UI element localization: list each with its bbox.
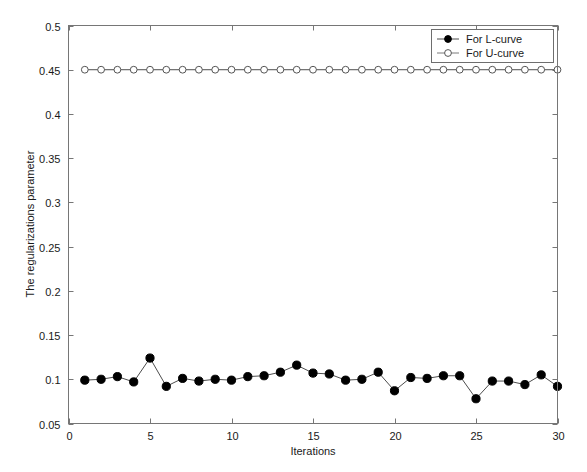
x-tick-label: 0 <box>66 430 72 442</box>
data-point <box>97 375 105 383</box>
data-point <box>538 66 545 73</box>
data-point <box>342 66 349 73</box>
data-point <box>227 376 235 384</box>
figure-canvas: 0.050.10.150.20.250.30.350.40.450.5 0510… <box>0 0 587 472</box>
data-point <box>81 376 89 384</box>
data-point <box>113 373 121 381</box>
x-tick-label: 5 <box>147 430 153 442</box>
data-point <box>212 66 219 73</box>
legend-label-l-curve: For L-curve <box>466 33 522 45</box>
data-point <box>179 374 187 382</box>
y-tick-label: 0.2 <box>45 286 60 298</box>
data-point <box>456 66 463 73</box>
data-point <box>162 382 170 390</box>
data-point <box>473 66 480 73</box>
data-point <box>472 395 480 403</box>
y-tick-label: 0.1 <box>45 374 60 386</box>
y-tick-label: 0.35 <box>39 153 60 165</box>
x-tick-label: 15 <box>307 430 319 442</box>
data-point <box>489 66 496 73</box>
legend-marker-open-circle-icon <box>445 50 452 57</box>
data-point <box>277 66 284 73</box>
data-point <box>196 66 203 73</box>
data-point <box>522 66 529 73</box>
data-point <box>423 374 431 382</box>
data-point <box>310 66 317 73</box>
y-tick-label: 0.4 <box>45 109 60 121</box>
data-point <box>228 66 235 73</box>
data-point <box>440 66 447 73</box>
data-point <box>407 66 414 73</box>
data-point <box>244 373 252 381</box>
data-point <box>521 380 529 388</box>
y-tick-label: 0.5 <box>45 21 60 33</box>
data-point <box>146 354 154 362</box>
data-point <box>456 372 464 380</box>
data-point <box>407 373 415 381</box>
x-tick-label: 25 <box>470 430 482 442</box>
data-point <box>276 368 284 376</box>
y-tick-label: 0.15 <box>39 330 60 342</box>
chart-legend[interactable]: For L-curve For U-curve <box>432 30 554 63</box>
x-tick-label: 20 <box>389 430 401 442</box>
data-point <box>505 66 512 73</box>
data-point <box>293 361 301 369</box>
data-point <box>375 66 382 73</box>
legend-label-u-curve: For U-curve <box>466 47 524 59</box>
data-point <box>98 66 105 73</box>
data-point <box>130 378 138 386</box>
data-point <box>391 66 398 73</box>
data-point <box>439 372 447 380</box>
data-point <box>374 368 382 376</box>
data-point <box>505 377 513 385</box>
data-point <box>359 66 366 73</box>
y-axis-title: The regularizations parameter <box>24 150 36 297</box>
data-point <box>114 66 121 73</box>
data-point <box>260 372 268 380</box>
x-tick-label: 10 <box>226 430 238 442</box>
data-point <box>163 66 170 73</box>
y-tick-label: 0.45 <box>39 65 60 77</box>
y-tick-label: 0.3 <box>45 197 60 209</box>
chart-plot: 0.050.10.150.20.250.30.350.40.450.5 0510… <box>0 0 587 472</box>
data-point <box>147 66 154 73</box>
data-point <box>195 377 203 385</box>
data-point <box>261 66 268 73</box>
data-point <box>244 66 251 73</box>
data-point <box>179 66 186 73</box>
data-point <box>326 66 333 73</box>
data-point <box>309 369 317 377</box>
data-point <box>488 377 496 385</box>
data-point <box>424 66 431 73</box>
data-point <box>358 375 366 383</box>
data-point <box>81 66 88 73</box>
data-point <box>325 370 333 378</box>
x-axis-title: Iterations <box>290 445 336 457</box>
y-tick-label: 0.25 <box>39 242 60 254</box>
data-point <box>537 371 545 379</box>
x-tick-label: 30 <box>552 430 564 442</box>
legend-marker-filled-circle-icon <box>445 36 452 43</box>
data-point <box>293 66 300 73</box>
y-tick-label: 0.05 <box>39 419 60 431</box>
data-point <box>390 387 398 395</box>
data-point <box>130 66 137 73</box>
data-point <box>342 376 350 384</box>
data-point <box>211 375 219 383</box>
